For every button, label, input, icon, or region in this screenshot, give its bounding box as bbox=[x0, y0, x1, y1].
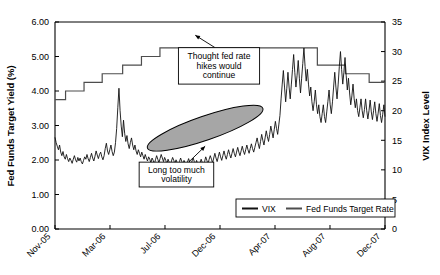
annotation-fed-hikes-line: hikes would bbox=[197, 61, 242, 71]
dual-axis-line-chart: 0.001.002.003.004.005.006.00 05101520253… bbox=[0, 0, 440, 275]
annotation-volatility-line: volatility bbox=[161, 174, 192, 184]
y-tick-label-left: 4.00 bbox=[31, 86, 49, 96]
y-tick-label-right: 25 bbox=[392, 76, 402, 86]
legend-label-vix: VIX bbox=[262, 204, 276, 214]
y-tick-label-right: 10 bbox=[392, 165, 402, 175]
y-tick-label-left: 2.00 bbox=[31, 155, 49, 165]
y-tick-label-right: 20 bbox=[392, 106, 402, 116]
y-tick-label-right: 35 bbox=[392, 17, 402, 27]
y-axis-right-title: VIX Index Level bbox=[420, 91, 431, 161]
y-tick-label-right: 0 bbox=[392, 224, 397, 234]
y-tick-label-left: 1.00 bbox=[31, 190, 49, 200]
annotation-fed-hikes-line: continue bbox=[203, 70, 236, 80]
annotation-fed-hikes-line: Thought fed rate bbox=[187, 51, 250, 61]
chart-root: 0.001.002.003.004.005.006.00 05101520253… bbox=[0, 0, 440, 275]
legend-label-fed-funds: Fed Funds Target Rate bbox=[306, 204, 394, 214]
y-tick-label-left: 6.00 bbox=[31, 17, 49, 27]
y-tick-label-right: 15 bbox=[392, 136, 402, 146]
annotation-volatility-line: Long too much bbox=[148, 165, 205, 175]
y-axis-left-title: Fed Funds Target Yield (%) bbox=[5, 65, 16, 186]
y-tick-label-right: 30 bbox=[392, 47, 402, 57]
chart-legend: VIX Fed Funds Target Rate bbox=[236, 199, 395, 217]
y-tick-label-left: 3.00 bbox=[31, 121, 49, 131]
y-tick-label-left: 5.00 bbox=[31, 52, 49, 62]
